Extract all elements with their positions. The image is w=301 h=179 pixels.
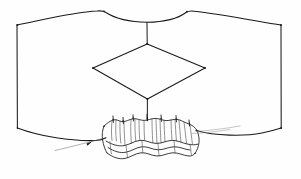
pleat-fold-8 (144, 120, 145, 140)
pleat-hem-dot-right (194, 153, 195, 154)
pleat-fold-12 (164, 120, 165, 142)
diamond-outline (93, 44, 205, 99)
pleat-rim-dot-6 (176, 118, 177, 119)
pleat-fold-10 (156, 118, 157, 143)
pleat-fold-3 (120, 121, 121, 143)
sheet-bottom-edge-right (196, 128, 281, 135)
leader-tail-right (196, 126, 240, 132)
pleat-fold-11 (160, 119, 161, 143)
figure-canvas: Hand-drawn line diagram Hand-drawn schem… (0, 0, 301, 179)
pleat-fold-6 (135, 119, 136, 142)
sheet-bottom-edge-left (17, 128, 106, 141)
pleat-fold-16 (184, 122, 187, 144)
pleat-rim-dot-2 (123, 120, 124, 121)
sheet-corner-dot-tr (280, 24, 282, 26)
pleat-fold-17 (190, 125, 192, 144)
pleat-fold-1 (111, 121, 112, 141)
sheet-corner-dot-tl (16, 24, 18, 26)
pleat-rim-dot-1 (112, 119, 114, 121)
pleated-band-group (102, 115, 199, 159)
centre-diamond-group (92, 43, 206, 100)
diamond-vertex-dot-left (92, 67, 94, 69)
sheet-corner-dot-br (280, 127, 282, 129)
pleat-rim-dot-3 (132, 117, 134, 119)
diamond-vertex-dot-right (204, 67, 206, 69)
pleat-fold-5 (131, 119, 132, 143)
pleat-rim-dot-4 (147, 117, 148, 118)
diamond-vertex-dot-top (146, 43, 148, 45)
pleat-bottom-hem-inner (108, 147, 190, 153)
pleat-bottom-hem (107, 153, 195, 159)
sheet-corner-dot-bl (17, 127, 19, 129)
pleat-lower-fold-6 (190, 144, 191, 155)
pleat-fold-9 (152, 119, 153, 143)
pleat-fold-13 (171, 120, 172, 141)
pleat-fold-15 (179, 120, 181, 142)
pleat-corner-dot-left (103, 125, 105, 127)
pleat-fold-14 (175, 119, 176, 141)
leader-arrow-group (55, 126, 240, 151)
pleat-rim-ticks (113, 115, 190, 126)
pleat-right-face (195, 130, 199, 153)
outer-sheet-group (16, 10, 282, 140)
sheet-top-edge (17, 11, 281, 25)
sheet-peak-dot-left (103, 10, 105, 12)
pleat-fold-4 (124, 122, 125, 145)
line-drawing: Hand-drawn line diagram Hand-drawn schem… (0, 0, 301, 179)
sheet-peak-dot-right (186, 11, 188, 13)
pleat-fold-7 (139, 120, 140, 141)
pleat-mid-contour (106, 140, 198, 146)
pleat-fold-2 (116, 120, 117, 141)
pleat-rim-dot-5 (161, 118, 162, 119)
pleat-top-rim (104, 118, 197, 130)
pleat-rim-dot-7 (189, 123, 190, 124)
